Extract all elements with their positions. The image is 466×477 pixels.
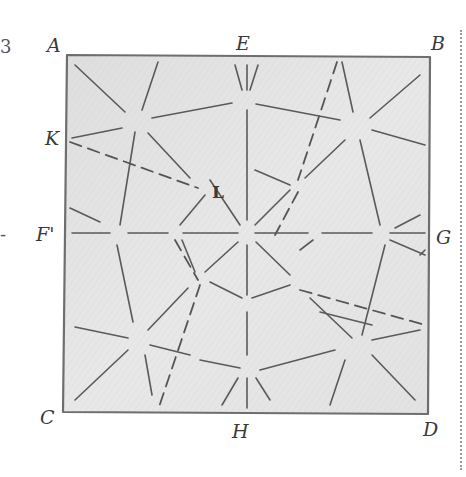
cropped-label-fragment-top: 3 xyxy=(0,38,11,56)
label-d: D xyxy=(423,420,438,439)
label-h: H xyxy=(232,422,249,441)
label-c: C xyxy=(40,408,55,427)
label-a: A xyxy=(47,36,61,55)
geometry-figure xyxy=(0,0,466,477)
page-margin-dotted-line xyxy=(460,30,462,470)
label-k: K xyxy=(45,129,59,148)
label-g: G xyxy=(436,228,451,247)
label-b: B xyxy=(431,34,445,53)
diagram-canvas: 3 - A E B K L F' G C H D xyxy=(0,0,466,477)
label-l: L xyxy=(212,184,224,201)
label-e: E xyxy=(236,34,250,53)
label-f: F' xyxy=(36,225,54,244)
cropped-label-fragment-mid: - xyxy=(0,226,6,244)
